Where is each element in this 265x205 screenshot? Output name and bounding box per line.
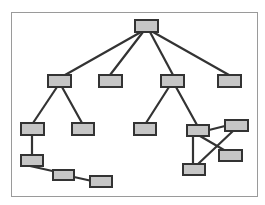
node-box-n0 (135, 20, 158, 32)
node-box-n10 (219, 150, 242, 161)
node-box-n12 (21, 155, 43, 166)
nodes-layer (21, 20, 248, 187)
node-box-n2 (99, 75, 122, 87)
node-box-n1 (48, 75, 71, 87)
node-box-n13 (53, 170, 74, 180)
node-box-n7 (134, 123, 156, 135)
edge (209, 126, 225, 130)
tree-diagram (0, 0, 265, 205)
edge (110, 32, 143, 75)
edge (176, 87, 197, 125)
edge (153, 32, 229, 75)
node-box-n11 (183, 164, 205, 175)
edge (146, 87, 169, 123)
node-box-n4 (218, 75, 241, 87)
node-box-n14 (90, 176, 112, 187)
edges-layer (30, 32, 233, 181)
edge (33, 87, 57, 123)
edge (62, 87, 82, 123)
node-box-n5 (21, 123, 44, 135)
node-box-n6 (72, 123, 94, 135)
diagram-frame (12, 13, 258, 197)
edge (150, 32, 173, 75)
node-box-n8 (187, 125, 209, 136)
edge (65, 32, 141, 75)
node-box-n9 (225, 120, 248, 131)
node-box-n3 (161, 75, 184, 87)
